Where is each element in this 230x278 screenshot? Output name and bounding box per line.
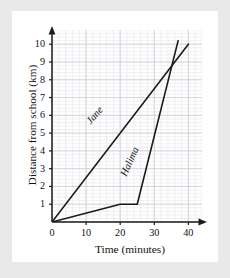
y-tick-label: 3	[23, 164, 45, 174]
x-tick-label: 0	[41, 228, 63, 238]
x-tick-label: 10	[75, 228, 97, 238]
x-tick-label: 30	[143, 228, 165, 238]
y-tick-label: 5	[23, 128, 45, 138]
y-tick-label: 7	[23, 93, 45, 103]
y-tick-label: 6	[23, 110, 45, 120]
y-tick-label: 10	[23, 39, 45, 49]
y-tick-label: 8	[23, 75, 45, 85]
y-tick-label: 1	[23, 199, 45, 209]
screenshot-page: Distance from school (km) Time (minutes)…	[0, 0, 230, 278]
x-axis-title: Time (minutes)	[52, 243, 208, 255]
y-tick-label: 2	[23, 181, 45, 191]
y-tick-label: 4	[23, 146, 45, 156]
y-tick-label: 9	[23, 57, 45, 67]
x-tick-label: 40	[177, 228, 199, 238]
x-tick-label: 20	[109, 228, 131, 238]
x-axis	[52, 219, 207, 226]
y-axis	[49, 26, 56, 222]
series-line-halima	[52, 41, 178, 222]
